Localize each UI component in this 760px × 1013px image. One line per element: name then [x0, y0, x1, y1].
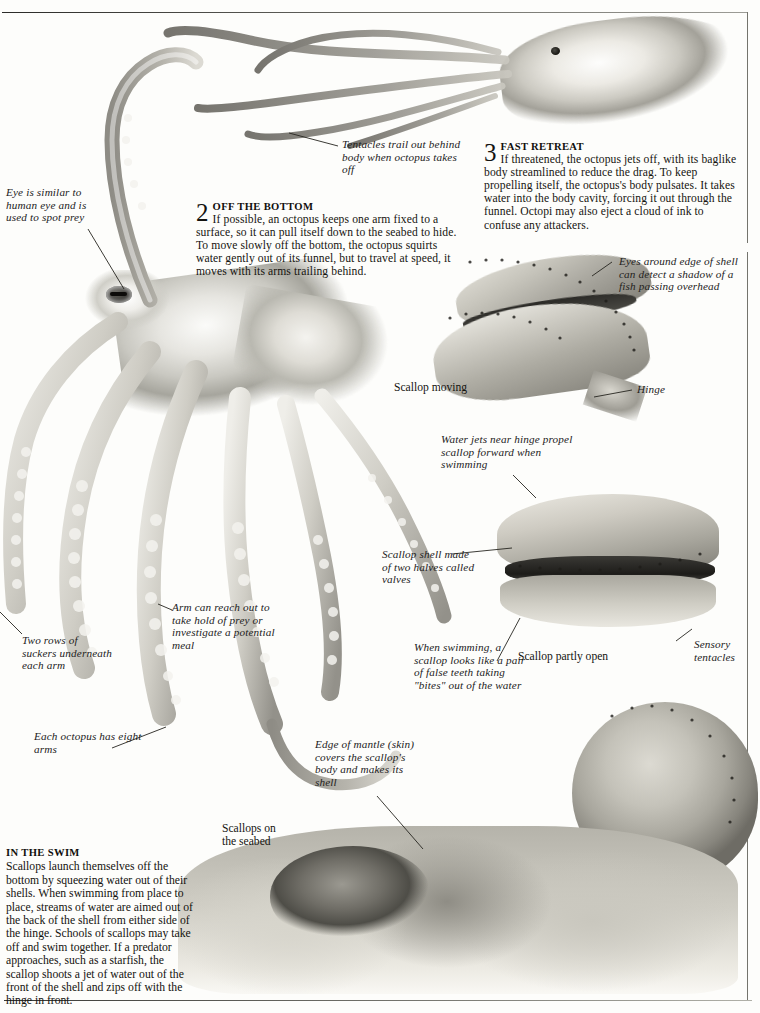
- scallops-seabed-rock: [270, 846, 430, 942]
- section-number-2: 2: [196, 202, 209, 223]
- label-eye-similar: Eye is similar to human eye and is used …: [6, 186, 102, 224]
- octopus-head: [227, 284, 394, 420]
- section-number-3: 3: [484, 142, 497, 163]
- scallop-partly-open-mantle: [505, 556, 715, 586]
- label-hinge: Hinge: [637, 383, 697, 396]
- scallop-moving-gape: [461, 286, 637, 335]
- label-each-octopus-eight-arms: Each octopus has eight arms: [34, 730, 142, 755]
- page-rule-right-upper: [747, 12, 748, 243]
- octopus-eye-bulge: [85, 270, 169, 332]
- label-scallop-shell-valves: Scallop shell made of two halves called …: [382, 548, 478, 586]
- label-tentacles-trail: Tentacles trail out behind body when oct…: [342, 138, 472, 176]
- label-eyes-around-edge: Eyes around edge of shell can detect a s…: [619, 255, 745, 293]
- scallop-partly-open-photo: [497, 494, 719, 572]
- caption-scallop-partly-open: Scallop partly open: [518, 650, 678, 663]
- section-off-the-bottom: 2 OFF THE BOTTOM If possible, an octopus…: [196, 200, 458, 279]
- swimming-octopus-eye: [551, 47, 560, 55]
- section-heading-fast-retreat: FAST RETREAT: [501, 141, 584, 152]
- section-fast-retreat: 3 FAST RETREAT If threatened, the octopu…: [484, 140, 740, 232]
- page-canvas: Tentacles trail out behind body when oct…: [0, 0, 760, 1013]
- label-when-swimming: When swimming, a scallop looks like a pa…: [414, 641, 536, 691]
- caption-scallops-on-seabed: Scallops on the seabed: [222, 822, 308, 848]
- swimming-octopus-photo: [495, 3, 756, 137]
- label-two-rows-suckers: Two rows of suckers underneath each arm: [22, 634, 112, 672]
- section-body-in-the-swim: Scallops launch themselves off the botto…: [6, 860, 193, 1007]
- page-rule-top: [2, 12, 747, 13]
- label-edge-of-mantle: Edge of mantle (skin) covers the scallop…: [315, 738, 427, 788]
- section-body-fast-retreat: If threatened, the octopus jets off, wit…: [484, 153, 736, 231]
- section-body-off-the-bottom: If possible, an octopus keeps one arm fi…: [196, 213, 456, 278]
- octopus-eye: [106, 286, 132, 303]
- scallop-round-photo: [572, 702, 758, 884]
- scallops-seabed-photo: [178, 826, 738, 994]
- section-heading-in-the-swim: IN THE SWIM: [6, 846, 196, 859]
- scallop-moving-hinge: [583, 370, 647, 422]
- scallop-partly-open-lower-valve: [500, 575, 716, 627]
- page-rule-right-lower: [747, 252, 748, 1000]
- label-water-jets: Water jets near hinge propel scallop for…: [441, 433, 581, 471]
- label-sensory-tentacles: Sensory tentacles: [694, 638, 754, 663]
- section-heading-off-the-bottom: OFF THE BOTTOM: [213, 201, 314, 212]
- label-arm-reach: Arm can reach out to take hold of prey o…: [172, 601, 290, 651]
- section-in-the-swim: IN THE SWIM Scallops launch themselves o…: [6, 846, 196, 1008]
- caption-scallop-moving: Scallop moving: [394, 381, 514, 394]
- octopus-eye-pupil: [110, 292, 127, 296]
